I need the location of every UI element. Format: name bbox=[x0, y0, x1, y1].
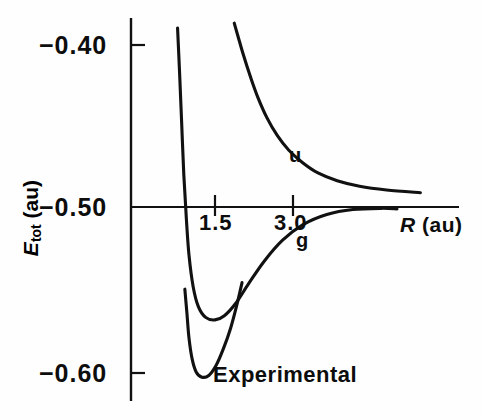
y-tick-label--0.60: −0.60 bbox=[39, 359, 107, 388]
curve-label-u: u bbox=[289, 144, 302, 167]
y-tick-marks bbox=[131, 45, 145, 373]
x-axis-title: R (au) bbox=[400, 213, 463, 237]
x-axis-title-symbol: R bbox=[400, 213, 416, 236]
curve-u bbox=[234, 23, 420, 193]
y-axis-title-subscript: tot bbox=[28, 224, 44, 242]
x-tick-label-1.5: 1.5 bbox=[199, 210, 233, 236]
curve-label-g: g bbox=[296, 229, 309, 252]
y-axis-title-symbol: E bbox=[19, 242, 42, 256]
figure-container: −0.40 −0.50 −0.60 1.5 3.0 Etot (au) R (a… bbox=[0, 0, 482, 419]
y-axis-title-text: Etot (au) bbox=[19, 180, 44, 256]
y-axis-title: Etot (au) bbox=[14, 123, 48, 313]
curve-label-experimental: Experimental bbox=[213, 362, 357, 388]
curve-g bbox=[178, 28, 397, 320]
y-axis-title-unit: (au) bbox=[19, 180, 42, 224]
y-tick-label--0.40: −0.40 bbox=[39, 31, 107, 60]
y-tick-label--0.50: −0.50 bbox=[39, 193, 107, 222]
x-axis-title-unit: (au) bbox=[416, 213, 463, 236]
